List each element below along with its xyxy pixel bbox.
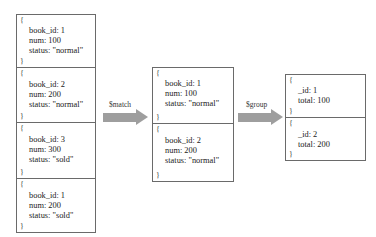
field-book-id: book_id: 1: [165, 79, 219, 89]
open-brace: {: [289, 119, 293, 129]
field-total: total: 100: [298, 96, 330, 106]
open-brace: {: [289, 76, 293, 86]
match-document-2: { book_id: 2 num: 200 status: "normal" }: [153, 124, 233, 181]
field-id: _id: 2: [298, 130, 330, 140]
field-book-id: book_id: 3: [29, 135, 73, 145]
input-document-1: { book_id: 1 num: 100 status: "normal" }: [17, 15, 95, 68]
input-document-3: { book_id: 3 num: 300 status: "sold" }: [17, 123, 95, 179]
field-status: status: "sold": [29, 211, 73, 221]
field-num: num: 300: [29, 145, 73, 155]
field-status: status: "normal": [165, 156, 219, 166]
input-document-2: { book_id: 2 num: 200 status: "normal" }: [17, 68, 95, 123]
field-status: status: "normal": [29, 100, 83, 110]
field-total: total: 200: [298, 140, 330, 150]
arrow-shaft: [103, 113, 136, 122]
close-brace: }: [289, 150, 293, 160]
field-status: status: "normal": [165, 99, 219, 109]
close-brace: }: [20, 57, 24, 67]
match-label: $match: [109, 100, 131, 109]
field-num: num: 200: [29, 90, 83, 100]
field-book-id: book_id: 1: [29, 26, 83, 36]
open-brace: {: [20, 124, 24, 134]
field-num: num: 100: [165, 89, 219, 99]
arrow-shaft: [238, 113, 271, 122]
group-document-2: { _id: 2 total: 200 }: [286, 118, 365, 160]
match-document-1: { book_id: 1 num: 100 status: "normal" }: [153, 68, 233, 124]
open-brace: {: [156, 125, 160, 135]
input-document-4: { book_id: 1 num: 200 status: "sold" }: [17, 179, 95, 232]
close-brace: }: [20, 168, 24, 178]
close-brace: }: [20, 222, 24, 232]
field-id: _id: 1: [298, 86, 330, 96]
group-document-1: { _id: 1 total: 100 }: [286, 75, 365, 118]
field-num: num: 200: [165, 146, 219, 156]
field-book-id: book_id: 2: [165, 136, 219, 146]
group-output: { _id: 1 total: 100 } { _id: 2 total: 20…: [285, 74, 366, 161]
match-output: { book_id: 1 num: 100 status: "normal" }…: [152, 67, 234, 182]
group-arrow: $group: [238, 100, 284, 126]
arrow-right-icon: [271, 109, 283, 125]
field-num: num: 100: [29, 36, 83, 46]
close-brace: }: [20, 112, 24, 122]
match-arrow: $match: [103, 100, 149, 126]
field-book-id: book_id: 2: [29, 80, 83, 90]
field-status: status: "sold": [29, 155, 73, 165]
input-collection: { book_id: 1 num: 100 status: "normal" }…: [16, 14, 96, 233]
field-book-id: book_id: 1: [29, 191, 73, 201]
close-brace: }: [156, 113, 160, 123]
field-status: status: "normal": [29, 46, 83, 56]
close-brace: }: [289, 107, 293, 117]
field-num: num: 200: [29, 201, 73, 211]
arrow-right-icon: [136, 109, 148, 125]
group-label: $group: [246, 100, 267, 109]
open-brace: {: [156, 69, 160, 79]
open-brace: {: [20, 180, 24, 190]
close-brace: }: [156, 171, 160, 181]
open-brace: {: [20, 69, 24, 79]
open-brace: {: [20, 16, 24, 26]
